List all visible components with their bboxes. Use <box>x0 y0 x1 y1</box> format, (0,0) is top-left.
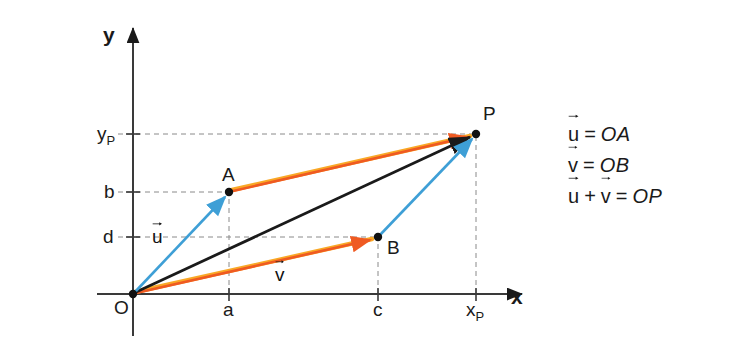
y-tick-label-yp: yP <box>97 124 115 147</box>
eq3-plus: + <box>579 185 601 207</box>
vector-OP-black <box>134 137 470 293</box>
x-tick-xp-sub: P <box>476 309 485 324</box>
vector-label-v: v <box>275 258 285 284</box>
vector-arrow-overbar-icon <box>568 175 579 181</box>
eq2-v-letter: v <box>568 154 578 176</box>
vector-label-u: u <box>152 220 163 246</box>
eq2-equals: = <box>578 154 600 176</box>
eq3-u-letter: u <box>568 185 579 207</box>
y-tick-yp-sub: P <box>107 133 116 148</box>
equation-list: u =OA v =OB u + v =OP <box>568 113 662 206</box>
eq3-rhs: OP <box>633 185 663 207</box>
vector-v-OB <box>136 240 370 293</box>
y-tick-label-d: d <box>103 227 114 246</box>
vector-arrow-overbar-icon <box>568 113 579 119</box>
point-A <box>225 188 233 196</box>
y-axis-label: y <box>103 24 115 45</box>
x-axis-label: x <box>511 286 523 307</box>
eq1-u-letter: u <box>568 123 579 145</box>
vector-arrow-overbar-icon <box>568 144 578 150</box>
equation-v-equals-OB: v =OB <box>568 144 662 175</box>
point-P <box>472 130 480 138</box>
axis-lines <box>97 28 522 336</box>
vector-AP-orange <box>233 137 468 191</box>
eq3-equals: = <box>611 185 633 207</box>
vector-u-OA <box>134 197 225 293</box>
x-tick-label-a: a <box>223 300 234 319</box>
point-O <box>129 290 137 298</box>
origin-label: O <box>114 298 129 317</box>
eq3-v-letter: v <box>601 185 611 207</box>
vector-label-v-text: v <box>275 264 285 285</box>
y-tick-yp-base: y <box>97 123 107 144</box>
figure-canvas: Banco de imagens/Arquivo da editora <box>0 0 732 344</box>
vector-label-u-text: u <box>152 226 163 247</box>
point-label-A: A <box>222 165 235 184</box>
y-tick-label-b: b <box>104 182 115 201</box>
vector-arrow-overbar-icon <box>601 175 611 181</box>
x-tick-xp-base: x <box>466 299 476 320</box>
eq3-u-vector: u <box>568 175 579 212</box>
x-tick-label-c: c <box>373 300 383 319</box>
eq3-v-vector: v <box>601 175 611 212</box>
equation-u-equals-OA: u =OA <box>568 113 662 144</box>
x-tick-label-xp: xP <box>466 300 484 323</box>
eq1-rhs: OA <box>601 123 631 145</box>
eq2-rhs: OB <box>600 154 630 176</box>
point-label-P: P <box>483 104 496 123</box>
point-label-B: B <box>387 238 400 257</box>
eq1-equals: = <box>579 123 601 145</box>
point-B <box>374 233 382 241</box>
equation-u-plus-v-equals-OP: u + v =OP <box>568 175 662 206</box>
